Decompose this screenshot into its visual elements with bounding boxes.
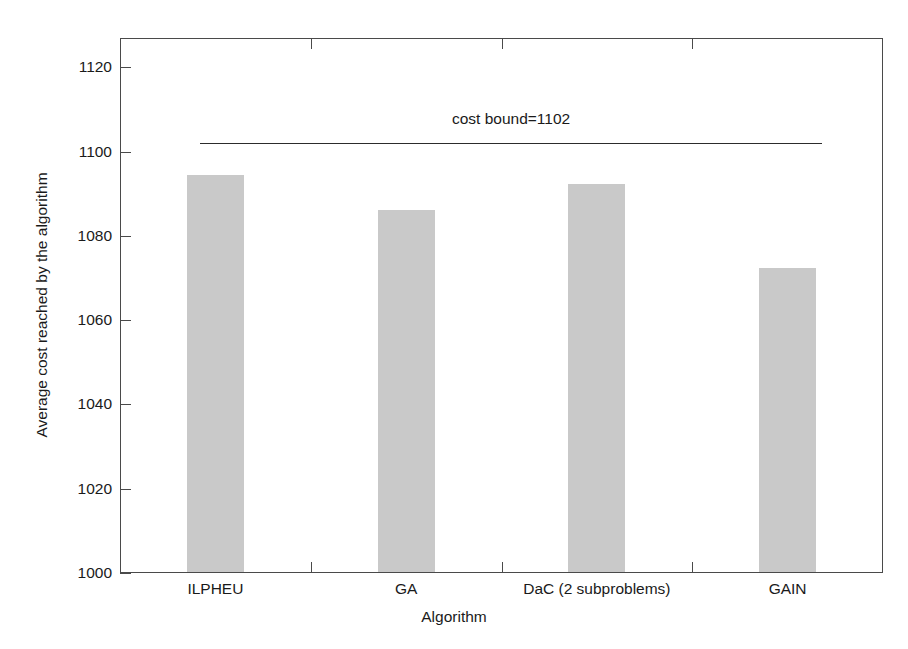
x-tick-top-1: [311, 38, 312, 49]
cost-bound-label: cost bound=1102: [452, 110, 570, 128]
y-tick-1020: [120, 489, 131, 490]
cost-bound-line: [200, 143, 822, 144]
bar-dac-2-subproblems: [568, 184, 625, 572]
y-tick-1080: [120, 236, 131, 237]
x-tick-label-2: DaC (2 subproblems): [523, 580, 670, 598]
y-tick-label-1000: 1000: [46, 565, 112, 581]
y-tick-label-1040: 1040: [46, 396, 112, 412]
bar-ilpheu: [187, 175, 244, 572]
bar-gain: [759, 268, 816, 572]
clipped-top-text: [60, 0, 760, 3]
x-tick-bottom-3: [692, 562, 693, 573]
bar-ga: [378, 210, 435, 572]
x-tick-top-3: [692, 38, 693, 49]
x-axis-title: Algorithm: [0, 608, 908, 626]
bar-chart: 1000102010401060108011001120 cost bound=…: [0, 0, 908, 649]
y-tick-1040: [120, 404, 131, 405]
y-tick-label-1080: 1080: [46, 228, 112, 244]
y-tick-1000: [120, 573, 131, 574]
y-tick-label-1120: 1120: [46, 59, 112, 75]
x-tick-bottom-2: [502, 562, 503, 573]
y-tick-1120: [120, 67, 131, 68]
y-axis-title: Average cost reached by the algorithm: [33, 35, 51, 575]
y-tick-1060: [120, 320, 131, 321]
y-tick-1100: [120, 152, 131, 153]
y-tick-label-1100: 1100: [46, 144, 112, 160]
x-tick-label-3: GAIN: [769, 580, 807, 598]
x-tick-label-1: GA: [395, 580, 417, 598]
x-tick-label-0: ILPHEU: [187, 580, 243, 598]
y-tick-label-1060: 1060: [46, 312, 112, 328]
y-tick-label-1020: 1020: [46, 481, 112, 497]
x-tick-bottom-1: [311, 562, 312, 573]
x-tick-top-2: [502, 38, 503, 49]
